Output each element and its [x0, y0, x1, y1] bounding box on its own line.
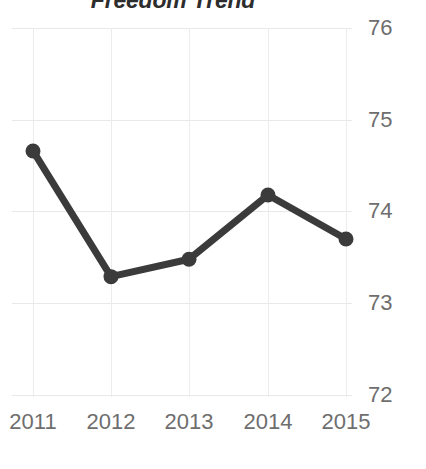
x-axis-tick-2013: 2013 — [149, 410, 229, 434]
line-series — [0, 0, 426, 469]
chart-container: Freedom Trend 76 75 74 73 72 2011 2012 2… — [0, 0, 426, 469]
y-axis-tick-72: 72 — [368, 384, 412, 406]
data-point-2012 — [104, 269, 119, 284]
x-axis-tick-2015: 2015 — [306, 410, 386, 434]
data-point-2014 — [261, 187, 276, 202]
y-axis-tick-74: 74 — [368, 200, 412, 222]
data-point-2015 — [339, 232, 354, 247]
x-axis-tick-2011: 2011 — [0, 410, 73, 434]
y-axis-tick-75: 75 — [368, 109, 412, 131]
y-axis-tick-73: 73 — [368, 292, 412, 314]
data-point-2011 — [26, 143, 41, 158]
plot-area: 76 75 74 73 72 2011 2012 2013 2014 2015 — [0, 0, 426, 469]
y-axis-tick-76: 76 — [368, 17, 412, 39]
data-point-2013 — [182, 252, 197, 267]
x-axis-tick-2012: 2012 — [71, 410, 151, 434]
x-axis-tick-2014: 2014 — [228, 410, 308, 434]
